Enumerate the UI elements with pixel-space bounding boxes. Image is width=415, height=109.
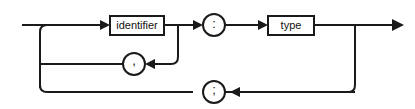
colon-label: : [212,16,216,31]
identifier-box-label: identifier [116,19,158,31]
railroad-diagram: identifier type : , ; [0,0,415,109]
left-vertical-rail [40,25,47,88]
arrow-into-type [258,20,268,30]
arrow-exit [392,19,404,31]
arrow-into-colon [193,20,203,30]
arrow-into-comma [145,59,155,69]
semicolon-loop-left-corner [40,85,193,92]
comma-label: , [132,53,136,68]
arrow-into-identifier [100,20,110,30]
type-box-label: type [281,19,302,31]
semicolon-loop-right-descender [348,25,355,92]
semicolon-label: ; [212,82,216,97]
syntax-diagram-canvas: identifier type : , ; [0,0,415,109]
